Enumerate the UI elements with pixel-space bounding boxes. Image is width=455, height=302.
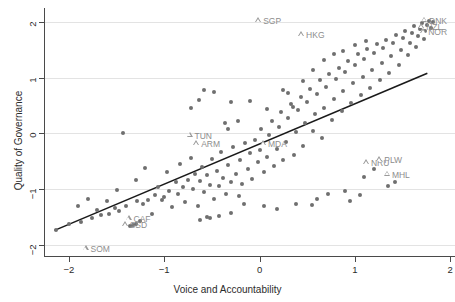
x-tick-label: −1 [149,264,179,275]
triangle-icon [83,245,89,250]
scatter-point [90,216,94,220]
scatter-point [229,211,233,215]
scatter-point [134,178,138,182]
y-tick-label: 1 [27,77,38,101]
triangle-icon [255,17,261,22]
scatter-point [237,194,241,198]
country-code-label: MHL [392,170,410,180]
scatter-point [275,207,279,211]
scatter-point [170,205,174,209]
scatter-point [153,193,157,197]
scatter-point [358,193,362,197]
scatter-point [186,178,190,182]
y-tick-label: −2 [27,244,38,268]
scatter-point [197,98,201,102]
scatter-point [294,202,298,206]
triangle-icon [384,171,390,176]
scatter-point [326,192,330,196]
scatter-point [310,203,314,207]
country-code-label: SSD [130,220,147,230]
scatter-point [189,106,193,110]
scatter-point [208,183,212,187]
scatter-point [334,77,338,81]
x-tick-label: 1 [340,264,370,275]
scatter-point [146,198,150,202]
scatter-point [330,118,334,122]
triangle-icon [187,132,193,137]
scatter-point [349,101,353,105]
scatter-point [258,148,262,152]
regression-line [45,8,455,256]
scatter-point [422,37,426,41]
country-code-label: HKG [306,30,324,40]
scatter-point [240,182,244,186]
country-code-label: ARM [201,139,220,149]
triangle-icon [298,31,304,36]
country-code-label: NOR [428,27,447,37]
y-axis-title: Quality of Governance [13,61,24,221]
scatter-point [115,188,119,192]
x-tick-label: 2 [435,264,455,275]
scatter-point [380,61,384,65]
triangle-icon [376,156,382,161]
scatter-point [292,153,296,157]
scatter-point [99,213,103,217]
scatter-point [361,75,365,79]
scatter-point [311,129,315,133]
chart-container: Quality of Governance Voice and Accounta… [0,0,455,302]
scatter-point [368,86,372,90]
scatter-point [236,119,240,123]
y-tick-label: 2 [27,21,38,45]
scatter-point [212,197,216,201]
scatter-point [299,95,303,99]
x-tick-mark [450,256,451,262]
scatter-point [296,108,300,112]
x-tick-mark [69,256,70,262]
scatter-point [356,52,360,56]
scatter-point [212,90,216,94]
scatter-point [291,105,295,109]
scatter-point [265,107,269,111]
scatter-point [272,164,276,168]
scatter-point [250,177,254,181]
scatter-point [196,204,200,208]
x-axis-title: Voice and Accountability [0,284,455,295]
triangle-icon [421,17,427,22]
plot-area: SGPHKGDNKNZLNORTUNARMMDANRUPLWMHLCAFSSDS… [45,8,455,256]
x-tick-mark [355,256,356,262]
scatter-point [340,109,344,113]
country-code-label: MDA [268,139,287,149]
scatter-point [234,172,238,176]
scatter-point [277,125,281,129]
scatter-point [113,206,117,210]
scatter-point [401,36,405,40]
scatter-point [370,68,374,72]
scatter-point [265,155,269,159]
scatter-point [308,87,312,91]
x-axis-line [45,256,455,257]
country-code-label: SOM [91,244,110,254]
scatter-point [224,192,228,196]
scatter-point [215,169,219,173]
scatter-point [193,172,197,176]
x-tick-mark [260,256,261,262]
triangle-icon [363,159,369,164]
scatter-point [267,133,271,137]
scatter-point [253,138,257,142]
scatter-point [191,187,195,191]
scatter-point [399,48,403,52]
scatter-point [315,197,319,201]
y-tick-label: 0 [27,133,38,157]
triangle-icon [260,140,266,145]
scatter-point [337,66,341,70]
scatter-point [107,212,111,216]
scatter-point [217,184,221,188]
scatter-point [210,157,214,161]
triangle-icon [122,221,128,226]
triangle-icon [420,28,426,33]
country-code-label: PLW [384,155,402,165]
scatter-point [226,127,230,131]
scatter-point [279,110,283,114]
country-code-label: SGP [263,16,281,26]
scatter-point [311,68,315,72]
